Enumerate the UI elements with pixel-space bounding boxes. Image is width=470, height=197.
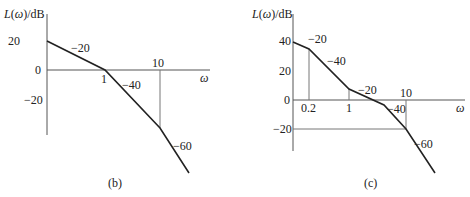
- slope-label-c-3: −20: [358, 83, 377, 97]
- y-tick-0-b: 0: [35, 63, 41, 77]
- y-tick-neg20-b: −20: [24, 93, 43, 107]
- ylabel-omega: ω: [15, 7, 23, 21]
- x-tick-02-c: 0.2: [301, 101, 316, 115]
- y-tick-0-c: 0: [284, 93, 290, 107]
- x-tick-1-b: 1: [101, 72, 107, 86]
- slope-label-c-1: −20: [308, 32, 327, 46]
- caption-b: (b): [108, 176, 122, 190]
- ylabel-omega-c: ω: [263, 7, 271, 21]
- figure-b: L(ω)/dB 20 0 −20 1 10 ω −20 −40 −60 (b): [3, 7, 210, 190]
- slope-label-c-4: −40: [387, 102, 406, 116]
- y-tick-20-c: 20: [279, 64, 291, 78]
- slope-label-b-3: −60: [173, 139, 192, 153]
- ylabel-suffix: )/dB: [23, 7, 44, 21]
- slope-label-b-2: −40: [122, 78, 141, 92]
- x-tick-10-c: 10: [400, 86, 412, 100]
- x-tick-10-b: 10: [152, 56, 164, 70]
- ylabel-suffix-c: )/dB: [271, 7, 292, 21]
- x-tick-1-c: 1: [346, 101, 352, 115]
- slope-label-b-1: −20: [71, 41, 90, 55]
- y-axis-label-b-full: L(ω)/dB: [3, 7, 45, 21]
- figure-c: L(ω)/dB 40 20 0 −20 0.2 1 10 ω −20 −40 −…: [251, 7, 465, 190]
- asymptote-curve-b: [47, 41, 189, 173]
- caption-c: (c): [364, 176, 377, 190]
- x-axis-label-c: ω: [456, 101, 464, 115]
- bode-diagrams: L(ω)/dB 20 0 −20 1 10 ω −20 −40 −60 (b) …: [0, 0, 470, 197]
- y-tick-40-c: 40: [279, 34, 291, 48]
- y-axis-label-c: L(ω)/dB: [251, 7, 293, 21]
- y-tick-neg20-c: −20: [273, 122, 292, 136]
- x-axis-label-b: ω: [200, 71, 208, 85]
- slope-label-c-2: −40: [327, 54, 346, 68]
- slope-label-c-5: −60: [414, 137, 433, 151]
- y-tick-20-b: 20: [8, 34, 20, 48]
